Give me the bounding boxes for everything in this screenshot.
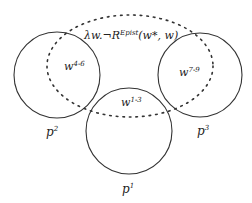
world-label-1-3: w1-3 (121, 96, 142, 109)
prop-label-p2: p2 (46, 125, 59, 139)
circle-p2 (14, 32, 100, 118)
prop-label-p3: p3 (197, 124, 210, 138)
circle-p3 (158, 33, 242, 117)
world-label-7-9: w7-9 (179, 66, 200, 79)
world-label-4-6: w4-6 (64, 60, 85, 73)
diagram-canvas: λw.¬REpist(w*, w) w4-6 w7-9 w1-3 p2 p3 p… (0, 0, 252, 203)
formula-label: λw.¬REpist(w*, w) (83, 29, 178, 42)
prop-label-p1: p1 (122, 182, 134, 196)
